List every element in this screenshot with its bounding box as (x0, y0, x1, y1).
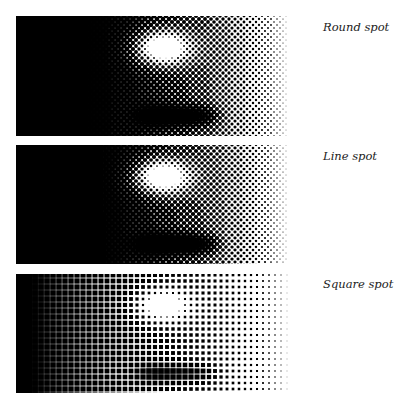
halftone-line-spot (16, 145, 290, 264)
label-square-spot: Square spot (323, 277, 393, 291)
panel-line-spot (16, 145, 290, 264)
halftone-round-spot (16, 16, 290, 136)
panel-square-spot (16, 274, 290, 393)
label-round-spot: Round spot (323, 20, 389, 34)
panel-round-spot (16, 16, 290, 136)
label-line-spot: Line spot (323, 149, 377, 163)
halftone-square-spot (16, 274, 290, 393)
